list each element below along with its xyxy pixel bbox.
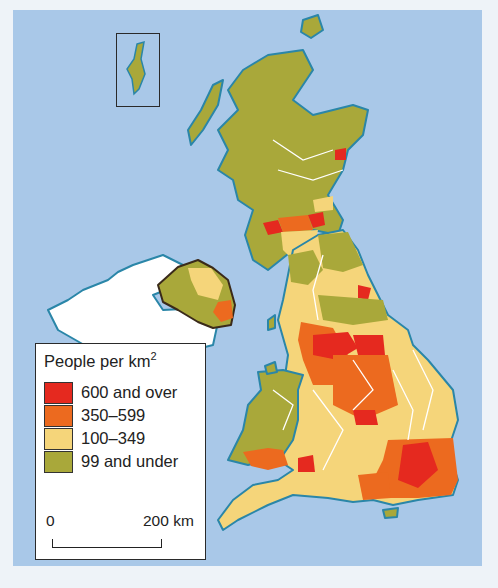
isle-of-wight	[383, 508, 398, 518]
swatch-green	[44, 451, 73, 473]
legend-label: 600 and over	[81, 383, 177, 402]
swatch-orange	[44, 405, 73, 427]
legend-item-100-349: 100–349	[44, 427, 145, 450]
south-wales-orange	[243, 448, 288, 470]
swatch-red	[44, 382, 73, 404]
isle-of-man	[268, 315, 275, 330]
central-belt-orange	[278, 215, 313, 232]
bristol-red	[298, 455, 315, 472]
birmingham-red	[353, 410, 378, 425]
legend-label: 100–349	[81, 429, 145, 448]
legend-item-99-under: 99 and under	[44, 450, 178, 473]
aberdeen-red	[335, 148, 346, 160]
shetland-islands	[117, 34, 159, 106]
legend-item-350-599: 350–599	[44, 404, 145, 427]
scale-max-label: 200 km	[143, 512, 194, 530]
scale-zero-label: 0	[46, 512, 55, 530]
legend-title: People per km2	[44, 350, 157, 371]
scale-bar	[52, 539, 162, 548]
northumberland-green	[318, 232, 363, 272]
orkney	[301, 15, 323, 38]
legend-item-600-plus: 600 and over	[44, 381, 177, 404]
legend: People per km2 600 and over 350–599 100–…	[35, 343, 206, 560]
anglesey	[265, 362, 277, 374]
legend-label: 99 and under	[81, 452, 178, 471]
swatch-yellow	[44, 428, 73, 450]
shetland-inset-box	[116, 33, 160, 107]
legend-label: 350–599	[81, 406, 145, 425]
outer-hebrides	[188, 80, 223, 145]
west-yorks-red	[353, 335, 385, 355]
hampshire-orange	[358, 472, 391, 500]
